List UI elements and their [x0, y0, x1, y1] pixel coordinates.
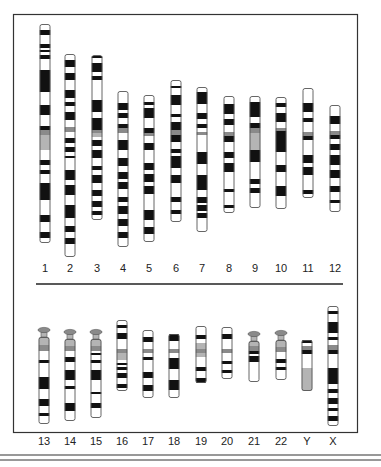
chromosome-label: 1 — [42, 262, 48, 274]
chromosome-label: 20 — [221, 435, 233, 447]
chromosome-band — [40, 215, 51, 222]
chromosome-band — [276, 347, 287, 352]
satellite-icon — [38, 327, 50, 332]
chromosome-label: 8 — [226, 262, 232, 274]
chromosome-band — [65, 226, 76, 232]
chromosome-band — [65, 185, 76, 195]
chromosome-band — [169, 358, 180, 369]
chromosome-label: 4 — [120, 262, 126, 274]
chromosome-band — [328, 350, 339, 354]
chromosome-band — [39, 345, 50, 351]
chromosome-band — [144, 128, 155, 133]
chromosome-10 — [276, 97, 287, 209]
chromosome-band — [91, 346, 102, 351]
chromosome-band — [92, 76, 103, 80]
chromosome-band — [249, 346, 260, 351]
chromosome-band — [39, 337, 50, 345]
chromosome-band — [250, 133, 261, 150]
chromosome-band — [144, 108, 155, 118]
chromosome-16 — [117, 320, 128, 391]
chromosome-y — [302, 340, 313, 391]
chromosome-band — [40, 50, 51, 52]
chromosome-band — [65, 156, 76, 158]
chromosome-band — [196, 335, 207, 339]
chromosome-band — [39, 413, 50, 416]
chromosome-band — [65, 370, 76, 380]
chromosome-band — [117, 333, 128, 339]
chromosome-row-13-22-sex — [38, 306, 339, 426]
chromosome-label: 22 — [275, 435, 287, 447]
chromosome-band — [328, 408, 339, 411]
chromosome-label: 18 — [168, 435, 180, 447]
chromosome-band — [303, 190, 314, 194]
chromosome-band — [197, 92, 208, 104]
chromosome-band — [328, 416, 339, 421]
chromosome-band — [40, 30, 51, 35]
chromosome-band — [303, 103, 314, 112]
chromosome-band — [118, 158, 129, 166]
chromosome-band — [92, 190, 103, 196]
chromosome-band — [196, 367, 207, 371]
chromosome-band — [92, 150, 103, 158]
chromosome-label: 13 — [38, 435, 50, 447]
chromosome-band — [171, 210, 182, 214]
chromosome-band — [196, 353, 207, 357]
chromosome-band — [40, 183, 51, 200]
chromosome-band — [303, 136, 314, 140]
karyotype-figure: 123456789101112 13141516171819202122YX — [0, 0, 381, 467]
chromosome-band — [196, 349, 207, 353]
chromosome-20 — [222, 327, 233, 379]
chromosome-band — [91, 353, 102, 355]
chromosome-band — [117, 373, 128, 378]
chromosome-band — [250, 123, 261, 128]
chromosome-band — [118, 103, 129, 110]
chromosome-band — [92, 201, 103, 207]
chromosome-band — [40, 170, 51, 174]
chromosome-band — [330, 170, 341, 178]
chromosome-band — [118, 172, 129, 179]
chromosome-band — [65, 102, 76, 106]
satellite-icon — [248, 331, 260, 336]
chromosome-band — [224, 119, 235, 125]
chromosome-band — [40, 160, 51, 165]
chromosome-band — [196, 343, 207, 349]
chromosome-band — [303, 155, 314, 163]
chromosome-band — [117, 349, 128, 353]
chromosome-band — [144, 174, 155, 182]
chromosome-17 — [143, 330, 154, 398]
chromosome-band — [144, 210, 155, 220]
chromosome-band — [144, 163, 155, 170]
chromosome-4 — [118, 91, 129, 247]
chromosome-label: 3 — [94, 262, 100, 274]
chromosome-band — [303, 118, 314, 122]
chromosome-band — [222, 370, 233, 373]
chromosome-band — [330, 144, 341, 150]
chromosome-band — [328, 368, 339, 384]
chromosome-band — [249, 356, 260, 362]
chromosome-band — [197, 213, 208, 218]
chromosome-label: X — [329, 435, 337, 447]
chromosome-band — [92, 133, 103, 137]
chromosome-9 — [250, 96, 261, 208]
chromosome-label: 17 — [142, 435, 154, 447]
chromosome-band — [249, 351, 260, 354]
chromosome-band — [143, 337, 154, 342]
chromosome-band — [65, 147, 76, 152]
chromosome-band — [39, 377, 50, 389]
chromosome-5 — [144, 95, 155, 242]
chromosome-band — [222, 334, 233, 339]
chromosome-band — [65, 346, 76, 351]
chromosome-band — [197, 152, 208, 164]
chromosome-band — [117, 325, 128, 328]
chromosome-band — [143, 349, 154, 353]
chromosome-band — [276, 186, 287, 196]
chromosome-band — [197, 132, 208, 135]
chromosome-band — [171, 86, 182, 88]
row2-labels: 13141516171819202122YX — [38, 435, 337, 447]
chromosome-band — [92, 56, 103, 58]
chromosome-22 — [275, 330, 287, 380]
chromosome-band — [144, 227, 155, 234]
chromosome-1 — [40, 24, 51, 243]
chromosome-15 — [90, 329, 102, 418]
chromosome-band — [276, 165, 287, 172]
